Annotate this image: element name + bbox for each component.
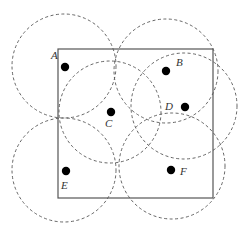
node-label-c: C	[105, 117, 113, 129]
node-dot-d	[181, 103, 189, 111]
node-label-e: E	[60, 179, 68, 191]
coverage-circles	[12, 14, 237, 222]
node-dot-a	[61, 63, 69, 71]
node-dot-f	[167, 166, 175, 174]
node-label-f: F	[179, 165, 187, 177]
node-dots	[61, 63, 189, 175]
coverage-diagram: ABCDEF	[0, 0, 250, 231]
node-label-a: A	[50, 49, 58, 61]
square-region	[58, 49, 213, 198]
node-label-d: D	[164, 100, 173, 112]
node-dot-c	[107, 108, 115, 116]
node-dot-e	[62, 167, 70, 175]
node-label-b: B	[176, 56, 183, 68]
node-dot-b	[162, 67, 170, 75]
